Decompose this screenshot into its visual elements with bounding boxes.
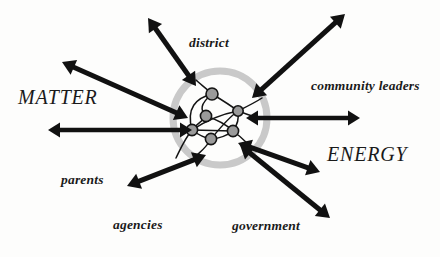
network-node (200, 110, 211, 121)
network-node (206, 88, 218, 100)
arrow-right (246, 111, 360, 126)
entity-label-parents: parents (61, 173, 104, 187)
arrow-head (246, 111, 258, 126)
arrow-head (348, 111, 360, 126)
arrow-district (148, 18, 196, 86)
internal-network-nodes (186, 88, 243, 145)
entity-label-government: government (232, 219, 300, 233)
flow-label-matter: MATTER (18, 87, 98, 107)
arrow-shaft (154, 26, 190, 77)
entity-label-district: district (189, 36, 229, 50)
network-node (233, 106, 243, 116)
entity-label-agencies: agencies (113, 218, 163, 232)
arrow-government (240, 145, 330, 218)
arrow-head (48, 123, 60, 138)
network-node (205, 133, 216, 144)
entity-label-community-leaders: community leaders (311, 79, 420, 93)
arrow-lower-left (127, 152, 206, 189)
flow-label-energy: ENERGY (327, 144, 407, 164)
open-system-diagram: MATTER ENERGY district community leaders… (0, 0, 440, 257)
network-node (227, 125, 238, 136)
arrow-shaft (137, 159, 197, 182)
